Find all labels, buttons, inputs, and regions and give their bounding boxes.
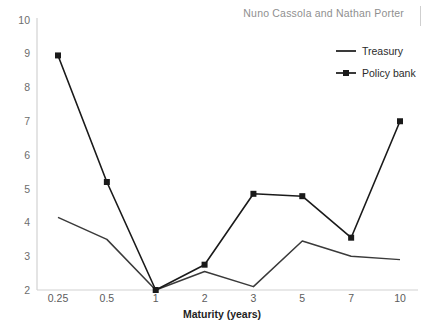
x-tick-label: 7 xyxy=(348,292,354,304)
legend-line-square-icon xyxy=(336,67,356,79)
x-tick-label: 3 xyxy=(251,292,257,304)
legend-label: Treasury xyxy=(362,45,403,57)
x-tick-label: 2 xyxy=(202,292,208,304)
x-axis-title-text: Maturity (years) xyxy=(183,308,261,320)
data-point-marker xyxy=(348,235,354,241)
chart-legend: Treasury Policy bank xyxy=(336,40,434,84)
series-layer xyxy=(55,52,403,293)
x-axis-title: Maturity (years) xyxy=(0,308,434,320)
x-tick-label: 1 xyxy=(153,292,159,304)
data-point-marker xyxy=(299,193,305,199)
legend-item-policy-bank[interactable]: Policy bank xyxy=(336,62,434,84)
x-tick-label: 0.25 xyxy=(48,292,68,304)
x-tick-label: 5 xyxy=(299,292,305,304)
x-tick-label: 0.5 xyxy=(100,292,115,304)
data-point-marker xyxy=(55,52,61,58)
data-point-marker xyxy=(104,179,110,185)
data-point-marker xyxy=(397,118,403,124)
chart-container: Nuno Cassola and Nathan Porter 10 9 8 7 … xyxy=(0,0,434,331)
data-point-marker xyxy=(202,262,208,268)
data-point-marker xyxy=(250,191,256,197)
legend-label: Policy bank xyxy=(362,67,416,79)
legend-item-treasury[interactable]: Treasury xyxy=(336,40,434,62)
x-tick-label: 10 xyxy=(394,292,406,304)
legend-line-icon xyxy=(336,45,356,57)
